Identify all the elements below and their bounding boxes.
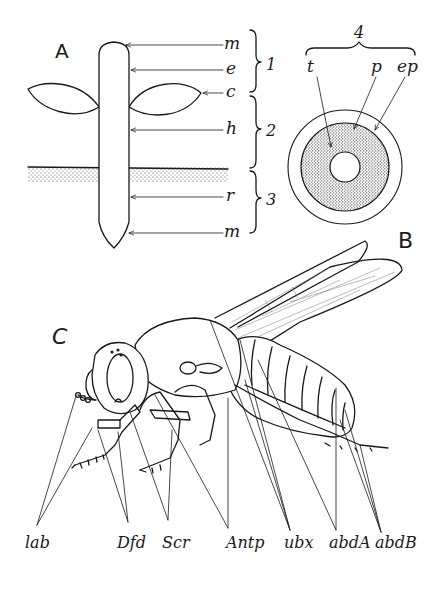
bracket-label-2: 2 [265, 121, 276, 140]
label-m-top: m [224, 33, 240, 53]
panel-letter-b: B [398, 228, 413, 253]
label-h: h [226, 118, 237, 138]
bracket-label-3: 3 [266, 190, 276, 209]
bracket-4 [306, 42, 415, 55]
panel-b-cross-section: 4 t p ep B [288, 23, 418, 253]
label-e: e [226, 58, 236, 78]
cotyledon-left-icon [28, 84, 99, 114]
label-c: c [226, 81, 236, 101]
head-icon [76, 343, 149, 414]
gene-label-antp: Antp [224, 533, 265, 552]
bracket-2 [250, 96, 261, 168]
gene-label-ubx: ubx [284, 533, 314, 552]
bracket-label-1: 1 [266, 55, 276, 74]
gene-label-lab: lab [25, 533, 50, 552]
label-ep: ep [397, 56, 418, 76]
label-m-bottom: m [224, 221, 240, 241]
gene-label-scr: Scr [162, 533, 191, 552]
panel-letter-c: C [52, 324, 68, 349]
cotyledon-right-icon [129, 84, 201, 115]
diagram-canvas: m e c h r m 1 2 3 A 4 t p ep B C [0, 0, 437, 592]
bracket-3 [250, 171, 261, 233]
panel-c-fly: C [25, 241, 417, 552]
gene-label-dfd: Dfd [116, 533, 146, 552]
panel-letter-a: A [55, 39, 69, 63]
bracket-1 [250, 30, 261, 92]
embryo-axis-icon [99, 42, 129, 248]
gene-label-abdb: abdB [375, 533, 417, 552]
panel-a-seedling: m e c h r m 1 2 3 A [28, 30, 276, 248]
bracket-label-4: 4 [353, 23, 364, 42]
central-core [330, 152, 360, 182]
label-t: t [307, 56, 314, 76]
label-r: r [226, 185, 235, 205]
thorax-icon [135, 318, 241, 397]
gene-label-abda: abdA [329, 533, 371, 552]
label-p: p [371, 56, 382, 76]
